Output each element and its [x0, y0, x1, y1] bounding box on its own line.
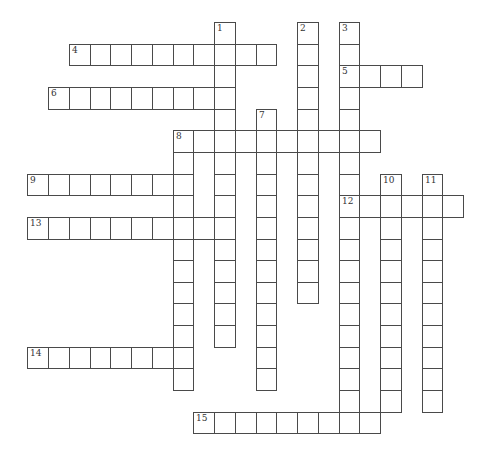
crossword-cell-r5-c11[interactable] — [256, 130, 277, 153]
crossword-cell-r15-c7[interactable] — [173, 347, 194, 369]
crossword-cell-r15-c15[interactable] — [339, 347, 360, 369]
crossword-cell-r18-c10[interactable] — [235, 412, 257, 434]
crossword-cell-r9-c4[interactable] — [110, 217, 132, 240]
crossword-cell-r1-c15[interactable] — [339, 44, 360, 66]
crossword-cell-r0-c9[interactable]: 1 — [214, 22, 236, 45]
crossword-cell-r7-c11[interactable] — [256, 174, 277, 196]
crossword-cell-r1-c5[interactable] — [131, 44, 153, 66]
crossword-cell-r8-c16[interactable] — [359, 195, 381, 218]
crossword-cell-r5-c16[interactable] — [359, 130, 381, 153]
crossword-cell-r7-c6[interactable] — [152, 174, 174, 196]
crossword-cell-r18-c9[interactable] — [214, 412, 236, 434]
crossword-cell-r16-c19[interactable] — [422, 368, 443, 391]
crossword-cell-r11-c15[interactable] — [339, 260, 360, 283]
crossword-cell-r11-c7[interactable] — [173, 260, 194, 283]
crossword-cell-r3-c5[interactable] — [131, 87, 153, 110]
crossword-cell-r7-c13[interactable] — [297, 174, 319, 196]
crossword-cell-r3-c2[interactable] — [69, 87, 91, 110]
crossword-cell-r4-c13[interactable] — [297, 109, 319, 131]
crossword-cell-r3-c15[interactable] — [339, 87, 360, 110]
crossword-cell-r2-c9[interactable] — [214, 65, 236, 88]
crossword-cell-r10-c11[interactable] — [256, 239, 277, 261]
crossword-cell-r2-c13[interactable] — [297, 65, 319, 88]
crossword-cell-r12-c9[interactable] — [214, 282, 236, 304]
crossword-cell-r17-c17[interactable] — [380, 390, 402, 413]
crossword-cell-r15-c1[interactable] — [48, 347, 70, 369]
crossword-cell-r9-c11[interactable] — [256, 217, 277, 240]
crossword-cell-r5-c13[interactable] — [297, 130, 319, 153]
crossword-cell-r8-c13[interactable] — [297, 195, 319, 218]
crossword-cell-r16-c17[interactable] — [380, 368, 402, 391]
crossword-cell-r2-c17[interactable] — [380, 65, 402, 88]
crossword-cell-r9-c3[interactable] — [90, 217, 111, 240]
crossword-cell-r14-c19[interactable] — [422, 325, 443, 348]
crossword-cell-r13-c7[interactable] — [173, 303, 194, 326]
crossword-cell-r4-c9[interactable] — [214, 109, 236, 131]
crossword-cell-r18-c13[interactable] — [297, 412, 319, 434]
crossword-cell-r8-c20[interactable] — [442, 195, 464, 218]
crossword-cell-r12-c17[interactable] — [380, 282, 402, 304]
crossword-cell-r11-c9[interactable] — [214, 260, 236, 283]
crossword-cell-r2-c18[interactable] — [401, 65, 423, 88]
crossword-cell-r18-c14[interactable] — [318, 412, 340, 434]
crossword-cell-r0-c13[interactable]: 2 — [297, 22, 319, 45]
crossword-cell-r18-c15[interactable] — [339, 412, 360, 434]
crossword-cell-r16-c11[interactable] — [256, 368, 277, 391]
crossword-cell-r18-c8[interactable]: 15 — [193, 412, 215, 434]
crossword-cell-r15-c11[interactable] — [256, 347, 277, 369]
crossword-cell-r12-c7[interactable] — [173, 282, 194, 304]
crossword-cell-r1-c6[interactable] — [152, 44, 174, 66]
crossword-cell-r6-c15[interactable] — [339, 152, 360, 175]
crossword-cell-r1-c2[interactable]: 4 — [69, 44, 91, 66]
crossword-cell-r3-c6[interactable] — [152, 87, 174, 110]
crossword-cell-r18-c11[interactable] — [256, 412, 277, 434]
crossword-cell-r0-c15[interactable]: 3 — [339, 22, 360, 45]
crossword-cell-r7-c19[interactable]: 11 — [422, 174, 443, 196]
crossword-cell-r1-c13[interactable] — [297, 44, 319, 66]
crossword-cell-r16-c7[interactable] — [173, 368, 194, 391]
crossword-cell-r7-c4[interactable] — [110, 174, 132, 196]
crossword-cell-r10-c9[interactable] — [214, 239, 236, 261]
crossword-cell-r12-c11[interactable] — [256, 282, 277, 304]
crossword-cell-r14-c7[interactable] — [173, 325, 194, 348]
crossword-cell-r8-c7[interactable] — [173, 195, 194, 218]
crossword-cell-r12-c15[interactable] — [339, 282, 360, 304]
crossword-cell-r5-c14[interactable] — [318, 130, 340, 153]
crossword-cell-r3-c8[interactable] — [193, 87, 215, 110]
crossword-cell-r1-c3[interactable] — [90, 44, 111, 66]
crossword-cell-r9-c1[interactable] — [48, 217, 70, 240]
crossword-cell-r13-c19[interactable] — [422, 303, 443, 326]
crossword-cell-r15-c19[interactable] — [422, 347, 443, 369]
crossword-cell-r14-c15[interactable] — [339, 325, 360, 348]
crossword-cell-r10-c15[interactable] — [339, 239, 360, 261]
crossword-cell-r7-c0[interactable]: 9 — [27, 174, 49, 196]
crossword-cell-r7-c7[interactable] — [173, 174, 194, 196]
crossword-cell-r1-c11[interactable] — [256, 44, 277, 66]
crossword-cell-r15-c6[interactable] — [152, 347, 174, 369]
crossword-cell-r1-c4[interactable] — [110, 44, 132, 66]
crossword-cell-r7-c15[interactable] — [339, 174, 360, 196]
crossword-cell-r6-c7[interactable] — [173, 152, 194, 175]
crossword-cell-r17-c19[interactable] — [422, 390, 443, 413]
crossword-cell-r9-c8[interactable] — [193, 217, 215, 240]
crossword-cell-r3-c1[interactable]: 6 — [48, 87, 70, 110]
crossword-cell-r5-c15[interactable] — [339, 130, 360, 153]
crossword-cell-r1-c10[interactable] — [235, 44, 257, 66]
crossword-cell-r7-c5[interactable] — [131, 174, 153, 196]
crossword-cell-r3-c3[interactable] — [90, 87, 111, 110]
crossword-cell-r11-c17[interactable] — [380, 260, 402, 283]
crossword-cell-r8-c9[interactable] — [214, 195, 236, 218]
crossword-cell-r15-c17[interactable] — [380, 347, 402, 369]
crossword-cell-r16-c15[interactable] — [339, 368, 360, 391]
crossword-cell-r3-c9[interactable] — [214, 87, 236, 110]
crossword-cell-r8-c19[interactable] — [422, 195, 443, 218]
crossword-cell-r10-c13[interactable] — [297, 239, 319, 261]
crossword-cell-r4-c11[interactable]: 7 — [256, 109, 277, 131]
crossword-cell-r1-c8[interactable] — [193, 44, 215, 66]
crossword-cell-r3-c7[interactable] — [173, 87, 194, 110]
crossword-cell-r3-c13[interactable] — [297, 87, 319, 110]
crossword-cell-r7-c9[interactable] — [214, 174, 236, 196]
crossword-cell-r5-c8[interactable] — [193, 130, 215, 153]
crossword-cell-r12-c13[interactable] — [297, 282, 319, 304]
crossword-cell-r15-c5[interactable] — [131, 347, 153, 369]
